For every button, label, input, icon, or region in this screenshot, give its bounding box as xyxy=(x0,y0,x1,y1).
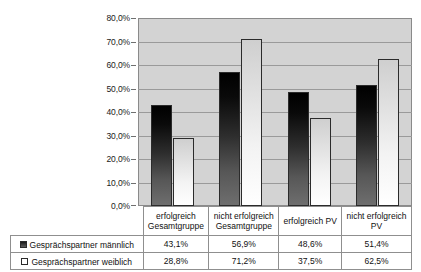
data-value-cell: 43,1% xyxy=(143,236,209,253)
legend-swatch-male-icon xyxy=(20,241,27,248)
y-axis-tick-label: 40,0% xyxy=(106,107,130,117)
legend-entry-female: Gesprächspartner weiblich xyxy=(11,253,144,270)
series-row-female: Gesprächspartner weiblich28,8%71,2%37,5%… xyxy=(11,253,412,270)
category-label-line: nicht erfolgreich xyxy=(344,211,409,222)
bar-male xyxy=(151,105,172,206)
legend-label: Gesprächspartner männlich xyxy=(30,239,134,249)
y-axis-tick-mark xyxy=(131,65,136,66)
data-table-body: erfolgreichGesamtgruppenicht erfolgreich… xyxy=(11,207,412,270)
y-axis-tick-label: 70,0% xyxy=(106,37,130,47)
category-label-cell: erfolgreich PV xyxy=(279,207,342,236)
data-value-cell: 71,2% xyxy=(209,253,279,270)
chart-figure: 80,0%70,0%60,0%50,0%40,0%30,0%20,0%10,0%… xyxy=(0,0,421,272)
bar-female xyxy=(241,39,262,206)
data-value-cell: 28,8% xyxy=(143,253,209,270)
data-value-cell: 56,9% xyxy=(209,236,279,253)
data-value-cell: 51,4% xyxy=(342,236,412,253)
category-header-row: erfolgreichGesamtgruppenicht erfolgreich… xyxy=(11,207,412,236)
y-axis-tick-label: 50,0% xyxy=(106,84,130,94)
category-label-cell: nicht erfolgreichPV xyxy=(342,207,412,236)
bar-male xyxy=(288,92,309,206)
legend-entry-male: Gesprächspartner männlich xyxy=(11,236,144,253)
category-label-cell: erfolgreichGesamtgruppe xyxy=(143,207,209,236)
category-label-line: Gesamtgruppe xyxy=(211,221,276,232)
bar-female xyxy=(378,59,399,206)
y-axis-tick-label: 60,0% xyxy=(106,60,130,70)
y-axis-tick-label: 20,0% xyxy=(106,154,130,164)
y-axis-tick-label: 30,0% xyxy=(106,131,130,141)
y-axis-tick-label: 80,0% xyxy=(106,13,130,23)
y-axis-tick-mark xyxy=(131,159,136,160)
y-axis-tick-label: 10,0% xyxy=(106,178,130,188)
bar-series-group xyxy=(138,18,412,206)
legend-label: Gesprächspartner weiblich xyxy=(31,256,132,266)
category-label-line: PV xyxy=(344,221,409,232)
category-label-line: nicht erfolgreich xyxy=(211,211,276,222)
y-axis-tick-mark xyxy=(131,89,136,90)
y-axis-tick-mark xyxy=(131,18,136,19)
series-row-male: Gesprächspartner männlich43,1%56,9%48,6%… xyxy=(11,236,412,253)
legend-swatch-female-icon xyxy=(21,258,28,265)
data-value-cell: 48,6% xyxy=(279,236,342,253)
category-label-cell: nicht erfolgreichGesamtgruppe xyxy=(209,207,279,236)
y-axis-tick-mark xyxy=(131,183,136,184)
y-axis-tick-mark xyxy=(131,42,136,43)
category-label-line: erfolgreich PV xyxy=(281,216,339,227)
plot-area xyxy=(138,18,412,206)
table-corner-blank xyxy=(11,207,144,236)
data-value-cell: 37,5% xyxy=(279,253,342,270)
category-label-line: Gesamtgruppe xyxy=(146,221,207,232)
bar-male xyxy=(356,85,377,206)
y-axis-tick-mark xyxy=(131,136,136,137)
y-axis-tick-mark xyxy=(131,112,136,113)
data-value-cell: 62,5% xyxy=(342,253,412,270)
category-label-line: erfolgreich xyxy=(146,211,207,222)
bar-female xyxy=(173,138,194,206)
bar-male xyxy=(219,72,240,206)
bar-female xyxy=(310,118,331,206)
data-table: erfolgreichGesamtgruppenicht erfolgreich… xyxy=(10,206,412,270)
y-axis: 80,0%70,0%60,0%50,0%40,0%30,0%20,0%10,0%… xyxy=(92,18,136,206)
